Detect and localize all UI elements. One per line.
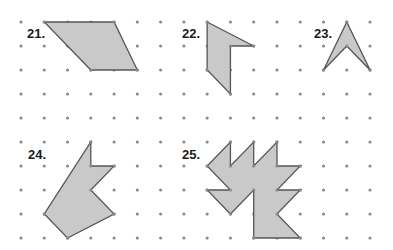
grid-dot xyxy=(159,212,162,215)
grid-dot xyxy=(229,20,232,23)
grid-dot xyxy=(43,188,46,191)
vertex-dot xyxy=(229,92,232,95)
grid-dot xyxy=(159,188,162,191)
grid-dot xyxy=(159,140,162,143)
grid-dot xyxy=(206,116,209,119)
figure-label-22: 22. xyxy=(181,27,201,41)
grid-dot xyxy=(299,68,302,71)
grid-dot xyxy=(182,188,185,191)
grid-dot xyxy=(322,140,325,143)
grid-dot xyxy=(66,92,69,95)
grid-dot xyxy=(43,140,46,143)
vertex-dot xyxy=(206,20,209,23)
grid-dot xyxy=(345,68,348,71)
vertex-dot xyxy=(229,188,232,191)
grid-dot xyxy=(275,92,278,95)
grid-dot xyxy=(136,92,139,95)
vertex-dot xyxy=(345,44,348,47)
grid-dot xyxy=(322,20,325,23)
grid-dot xyxy=(229,116,232,119)
grid-dot xyxy=(275,44,278,47)
grid-dot xyxy=(368,212,371,215)
grid-dot xyxy=(182,212,185,215)
vertex-dot xyxy=(275,188,278,191)
vertex-dot xyxy=(275,212,278,215)
grid-dot xyxy=(43,68,46,71)
grid-dot xyxy=(136,188,139,191)
grid-dot xyxy=(19,20,22,23)
grid-dot xyxy=(159,92,162,95)
vertex-dot xyxy=(252,164,255,167)
grid-dot xyxy=(322,116,325,119)
grid-dot xyxy=(182,164,185,167)
grid-dot xyxy=(66,68,69,71)
vertex-dot xyxy=(136,68,139,71)
grid-dot xyxy=(43,164,46,167)
grid-dot xyxy=(159,68,162,71)
grid-dot xyxy=(206,92,209,95)
grid-dot xyxy=(66,116,69,119)
grid-dot xyxy=(89,92,92,95)
grid-dot xyxy=(368,44,371,47)
vertex-dot xyxy=(368,68,371,71)
grid-dot xyxy=(252,20,255,23)
grid-dot xyxy=(275,20,278,23)
vertex-dot xyxy=(299,188,302,191)
grid-dot xyxy=(19,68,22,71)
vertex-dot xyxy=(252,44,255,47)
grid-dot xyxy=(345,212,348,215)
grid-dot xyxy=(345,164,348,167)
figure-label-24: 24. xyxy=(27,148,47,162)
grid-dot xyxy=(275,116,278,119)
grid-dot xyxy=(299,116,302,119)
grid-dot xyxy=(89,116,92,119)
grid-dot xyxy=(299,212,302,215)
figure-polygon-22 xyxy=(207,22,254,94)
grid-dot xyxy=(368,188,371,191)
grid-dot xyxy=(19,116,22,119)
vertex-dot xyxy=(112,20,115,23)
grid-dot xyxy=(182,236,185,239)
vertex-dot xyxy=(89,140,92,143)
vertex-dot xyxy=(89,164,92,167)
vertex-dot xyxy=(112,164,115,167)
vertex-dot xyxy=(299,236,302,239)
grid-dot xyxy=(368,164,371,167)
vertex-dot xyxy=(345,20,348,23)
vertex-dot xyxy=(112,212,115,215)
vertex-dot xyxy=(66,236,69,239)
grid-dot xyxy=(206,236,209,239)
grid-dot xyxy=(252,92,255,95)
vertex-dot xyxy=(43,212,46,215)
grid-dot xyxy=(182,140,185,143)
vertex-dot xyxy=(229,164,232,167)
grid-dot xyxy=(136,116,139,119)
grid-dot xyxy=(299,92,302,95)
grid-dot xyxy=(43,44,46,47)
grid-dot xyxy=(112,92,115,95)
grid-dot xyxy=(299,20,302,23)
grid-dot xyxy=(322,44,325,47)
vertex-dot xyxy=(252,236,255,239)
vertex-dot xyxy=(43,20,46,23)
grid-dot xyxy=(159,44,162,47)
vertex-dot xyxy=(275,140,278,143)
grid-dot xyxy=(368,236,371,239)
grid-dot xyxy=(19,236,22,239)
figure-label-25: 25. xyxy=(181,148,201,162)
grid-dot xyxy=(275,68,278,71)
figure-label-23: 23. xyxy=(313,27,333,41)
grid-dot xyxy=(322,236,325,239)
grid-dot xyxy=(19,92,22,95)
grid-dot xyxy=(345,236,348,239)
grid-dot xyxy=(43,116,46,119)
vertex-dot xyxy=(322,68,325,71)
grid-dot xyxy=(19,212,22,215)
vertex-dot xyxy=(229,212,232,215)
grid-dot xyxy=(322,92,325,95)
grid-dot xyxy=(19,188,22,191)
grid-dot xyxy=(112,116,115,119)
vertex-dot xyxy=(89,68,92,71)
grid-dot xyxy=(368,140,371,143)
grid-dot xyxy=(299,44,302,47)
